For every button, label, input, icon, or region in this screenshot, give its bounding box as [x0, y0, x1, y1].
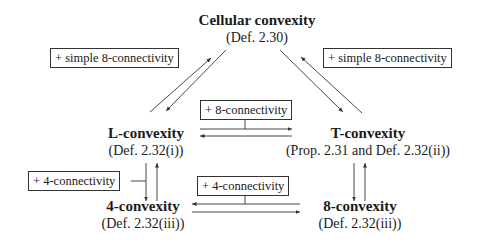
edge-label-four-eight: + 4-connectivity — [197, 176, 289, 196]
edge-label-l-four: + 4-connectivity — [28, 171, 120, 191]
node-title: 8-convexity — [305, 197, 415, 215]
node-title: T-convexity — [270, 124, 466, 142]
node-l-convexity: L-convexity (Def. 2.32(i)) — [96, 124, 196, 160]
node-ref: (Def. 2.32(iii)) — [88, 215, 198, 233]
node-title: L-convexity — [96, 124, 196, 142]
node-ref: (Def. 2.32(i)) — [96, 142, 196, 160]
node-title: Cellular convexity — [187, 11, 327, 29]
edge-label-cellular-l: + simple 8-connectivity — [50, 48, 179, 68]
node-4-convexity: 4-convexity (Def. 2.32(iii)) — [88, 197, 198, 233]
edge-label-cellular-t: + simple 8-connectivity — [323, 48, 452, 68]
node-title: 4-convexity — [88, 197, 198, 215]
node-ref: (Def. 2.30) — [187, 29, 327, 47]
node-ref: (Prop. 2.31 and Def. 2.32(ii)) — [270, 142, 466, 160]
node-t-convexity: T-convexity (Prop. 2.31 and Def. 2.32(ii… — [270, 124, 466, 160]
node-cellular-convexity: Cellular convexity (Def. 2.30) — [187, 11, 327, 47]
node-8-convexity: 8-convexity (Def. 2.32(iii)) — [305, 197, 415, 233]
node-ref: (Def. 2.32(iii)) — [305, 215, 415, 233]
edge-label-l-t: + 8-connectivity — [200, 100, 292, 120]
